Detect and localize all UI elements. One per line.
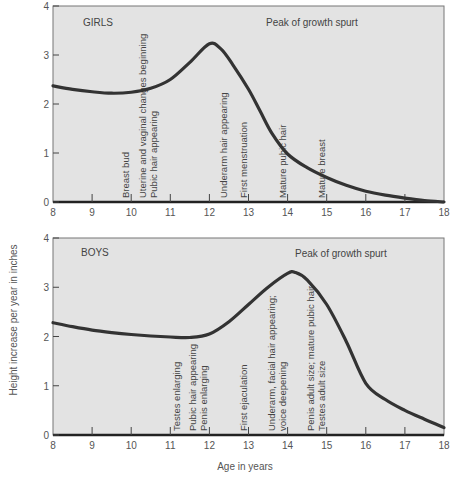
girls-panel: 0123489101112131415161718Breast budUteri…: [43, 1, 450, 218]
y-tick-label: 1: [43, 148, 49, 159]
milestone-label: Mature pubic hair: [277, 125, 288, 198]
x-tick-label: 18: [438, 440, 450, 451]
milestone-label: Underarm, facial hair appearing;: [266, 295, 277, 431]
x-axis-title: Age in years: [217, 461, 273, 472]
milestone-label: Pubic hair appearing: [187, 344, 198, 431]
x-tick-label: 9: [89, 440, 95, 451]
milestone-label: Penis enlarging: [198, 366, 209, 432]
x-tick-label: 8: [50, 207, 56, 218]
x-tick-label: 11: [165, 207, 176, 218]
y-tick-label: 3: [43, 282, 49, 293]
x-tick-label: 15: [321, 207, 333, 218]
x-tick-label: 17: [399, 207, 411, 218]
growth-spurt-chart: 0123489101112131415161718Breast budUteri…: [0, 0, 468, 494]
panel-title: BOYS: [81, 247, 109, 258]
panel-title: GIRLS: [83, 17, 113, 28]
boys-panel: 0123489101112131415161718Testes enlargin…: [43, 233, 450, 451]
y-tick-label: 2: [43, 99, 49, 110]
y-tick-label: 4: [43, 1, 49, 12]
milestone-label: Uterine and vaginal changes beginning: [137, 34, 148, 198]
x-tick-label: 10: [126, 207, 138, 218]
peak-annotation: Peak of growth spurt: [295, 248, 387, 259]
x-tick-label: 16: [360, 207, 372, 218]
x-tick-label: 13: [243, 440, 255, 451]
y-tick-label: 0: [43, 197, 49, 208]
y-tick-label: 1: [43, 381, 49, 392]
x-tick-label: 14: [282, 440, 294, 451]
milestone-label: Mature breast: [316, 139, 327, 198]
milestone-label: Testes adult size: [316, 361, 327, 431]
x-tick-label: 15: [321, 440, 333, 451]
plot-area: [53, 238, 444, 435]
peak-annotation: Peak of growth spurt: [266, 17, 358, 28]
milestone-label: Breast bud: [120, 152, 131, 198]
y-tick-label: 2: [43, 332, 49, 343]
x-tick-label: 8: [50, 440, 56, 451]
x-tick-label: 18: [438, 207, 450, 218]
x-tick-label: 12: [204, 207, 216, 218]
x-tick-label: 12: [204, 440, 216, 451]
milestone-label: Penis adult size; mature pubic hair: [305, 286, 316, 431]
y-tick-label: 0: [43, 430, 49, 441]
y-tick-label: 3: [43, 50, 49, 61]
milestone-label: First menstruation: [238, 122, 249, 198]
milestone-label: First ejaculation: [238, 364, 249, 431]
plot-area: [53, 6, 444, 202]
x-tick-label: 13: [243, 207, 255, 218]
milestone-label: voice deepening: [277, 362, 288, 431]
y-tick-label: 4: [43, 233, 49, 244]
x-tick-label: 11: [165, 440, 176, 451]
milestone-label: Underarm hair appearing: [218, 92, 229, 198]
x-tick-label: 10: [126, 440, 138, 451]
y-axis-title: Height increase per year in inches: [8, 244, 19, 395]
x-tick-label: 9: [89, 207, 95, 218]
milestone-label: Pubic hair appearing: [148, 111, 159, 198]
x-tick-label: 14: [282, 207, 294, 218]
milestone-label: Testes enlarging: [171, 362, 182, 431]
x-tick-label: 17: [399, 440, 411, 451]
x-tick-label: 16: [360, 440, 372, 451]
